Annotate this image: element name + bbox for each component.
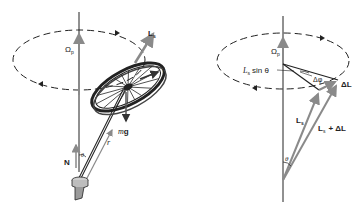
orbit-arrow-bottom-icon (38, 81, 43, 87)
right-panel: Ωp Δφ Lssin θ ΔL Ls Ls+ ΔL θ (217, 16, 352, 202)
pivot-stand (72, 177, 88, 200)
omega-p-label: Ωp (65, 45, 74, 55)
ls-label: Ls (148, 29, 156, 39)
ls-vector (135, 34, 153, 63)
n-label: N (64, 158, 70, 167)
mg-label: mg (118, 127, 129, 136)
ls-plus-dl-label: Ls+ ΔL (318, 124, 346, 134)
right-omega-p-label: Ωp (271, 47, 280, 57)
gyroscope-precession-diagram: Ωp r N θ (0, 0, 361, 212)
delta-l-label: ΔL (341, 80, 352, 89)
orbit-arrow-top-icon (115, 30, 120, 36)
radius-line-2 (283, 64, 338, 80)
ls-sin-theta-label: Lssin θ (242, 66, 269, 76)
r-label: r (107, 138, 111, 147)
right-orbit-arrow-top-icon (320, 35, 325, 41)
torque-vector (140, 72, 158, 79)
spinning-wheel (85, 53, 173, 124)
right-theta-label: θ (285, 155, 289, 163)
delta-l-vector (319, 82, 335, 90)
ls-vector-right (283, 94, 318, 180)
delta-phi-label: Δφ (313, 76, 323, 84)
theta-label: θ (81, 152, 84, 158)
left-panel: Ωp r N θ (13, 12, 173, 200)
ls-label-right: Ls (296, 116, 304, 126)
